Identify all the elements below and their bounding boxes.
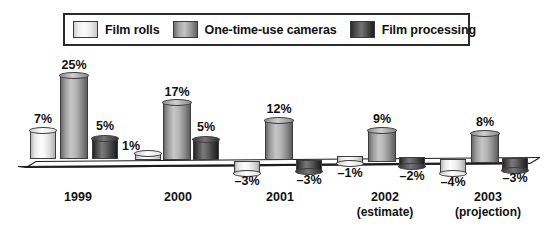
- bar-2003-cameras: [471, 134, 499, 163]
- x-label-2002-year: 2002: [371, 190, 399, 204]
- bar-group-2003: –4% 8% –3%: [428, 55, 533, 183]
- bar-2003-film-rolls: [440, 159, 466, 173]
- bar-2001-cameras: [265, 121, 293, 160]
- value-label-2000-cameras: 17%: [156, 85, 198, 99]
- bar-group-2000: 1% 17% 5%: [123, 55, 223, 183]
- mid-gray-swatch-icon: [173, 21, 198, 38]
- value-label-2002-processing: –2%: [392, 169, 432, 183]
- legend-item-one-time-use-cameras: One-time-use cameras: [173, 21, 337, 38]
- x-label-2003-year: 2003: [474, 190, 502, 204]
- x-label-2000-year: 2000: [164, 190, 192, 204]
- value-label-1999-cameras: 25%: [53, 58, 95, 72]
- bar-2001-processing: [296, 160, 322, 171]
- legend-label-one-time-use-cameras: One-time-use cameras: [205, 23, 337, 37]
- value-label-2003-cameras: 8%: [464, 115, 506, 129]
- bar-2003-processing: [502, 158, 528, 170]
- bar-1999-film-rolls: [30, 131, 56, 159]
- bar-2002-film-rolls: [337, 156, 363, 163]
- value-label-2001-processing: –3%: [289, 173, 329, 187]
- bar-group-1999: 7% 25% 5%: [20, 55, 120, 183]
- value-label-2000-film-rolls: 1%: [111, 139, 151, 153]
- bar-2002-cameras: [368, 131, 396, 162]
- bar-2002-processing: [399, 157, 425, 166]
- value-label-2003-processing: –3%: [495, 171, 535, 185]
- x-label-2000: 2000: [148, 190, 208, 205]
- bar-2000-film-rolls: [135, 154, 161, 160]
- light-gray-swatch-icon: [73, 21, 98, 38]
- x-label-2002-note: (estimate): [345, 205, 425, 220]
- value-label-2000-processing: 5%: [186, 120, 226, 134]
- bar-2001-film-rolls: [234, 161, 260, 173]
- bar-2000-processing: [193, 140, 219, 160]
- bar-group-2002: –1% 9% –2%: [325, 55, 430, 183]
- x-label-2001-year: 2001: [266, 190, 294, 204]
- x-label-2001: 2001: [250, 190, 310, 205]
- bar-group-2001: –3% 12% –3%: [222, 55, 327, 183]
- dark-gray-swatch-icon: [350, 21, 375, 38]
- value-label-2001-cameras: 12%: [258, 102, 300, 116]
- x-label-2003-note: (projection): [443, 205, 533, 220]
- x-label-2002: 2002 (estimate): [345, 190, 425, 220]
- value-label-2002-cameras: 9%: [361, 112, 403, 126]
- plot-area: 7% 25% 5% 1%: [0, 55, 554, 183]
- legend-item-film-processing: Film processing: [350, 21, 476, 38]
- x-label-1999-year: 1999: [64, 190, 92, 204]
- legend-label-film-rolls: Film rolls: [105, 23, 160, 37]
- value-label-1999-film-rolls: 7%: [23, 112, 63, 126]
- bar-1999-cameras: [60, 76, 88, 159]
- chart-legend: Film rolls One-time-use cameras Film pro…: [63, 13, 470, 46]
- x-label-2003: 2003 (projection): [443, 190, 533, 220]
- legend-label-film-processing: Film processing: [382, 23, 476, 37]
- value-label-1999-processing: 5%: [85, 119, 125, 133]
- legend-item-film-rolls: Film rolls: [73, 21, 160, 38]
- x-axis-labels: 1999 2000 2001 2002 (estimate) 2003 (pro…: [0, 186, 554, 228]
- value-label-2002-film-rolls: –1%: [330, 166, 370, 180]
- bar-chart: Film rolls One-time-use cameras Film pro…: [0, 0, 554, 228]
- x-label-1999: 1999: [48, 190, 108, 205]
